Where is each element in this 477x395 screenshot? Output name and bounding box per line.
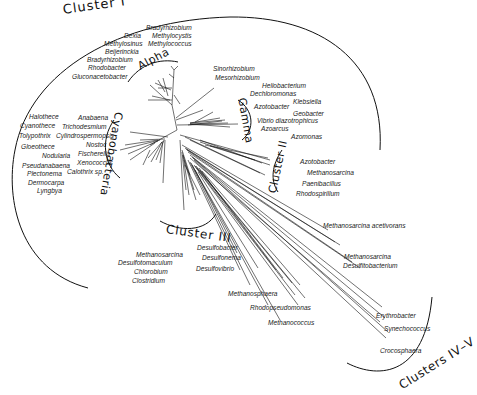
taxon-label: Heliobacterium xyxy=(262,83,306,90)
taxon-label: Chlorobium xyxy=(134,269,168,276)
taxon-label: Pseudanabaena xyxy=(22,163,70,170)
taxon-label: Halothece xyxy=(29,114,59,121)
taxon-label: Xenococcus xyxy=(77,160,113,167)
taxon-label: Desulfonema xyxy=(202,255,241,262)
taxon-label: Methylosinus xyxy=(104,41,142,48)
taxon-label: Nostoc xyxy=(86,142,107,149)
taxon-label: Nodularia xyxy=(42,153,70,160)
taxon-label: Cyanothece xyxy=(20,123,55,130)
taxon-label: Klebsiella xyxy=(293,99,321,106)
taxon-label: Mesorhizobium xyxy=(215,75,260,82)
taxon-label: Dermocarpa xyxy=(28,180,64,187)
clusters-iv-v-arc xyxy=(347,297,432,371)
taxon-label: Trichodesmium xyxy=(62,124,107,131)
taxon-label: Methylocystis xyxy=(152,33,192,40)
taxon-label: Methanococcus xyxy=(268,320,314,327)
taxon-label: Gluconacetobacter xyxy=(72,74,127,81)
taxon-label: Rhodospirillum xyxy=(296,191,340,198)
taxon-label: Calothrix sp. xyxy=(67,169,104,176)
taxon-label: Desulfobacter xyxy=(197,245,238,252)
taxon-label: Fischerella xyxy=(78,151,110,158)
taxon-label: Desulfotomaculum xyxy=(118,260,173,267)
taxon-label: Azomonas xyxy=(291,134,322,141)
taxon-label: Sinorhizobium xyxy=(213,66,255,73)
taxon-label: Methanosarcina acetivorans xyxy=(323,223,405,230)
taxon-label: Azotobacter xyxy=(300,159,335,166)
taxon-label: Methanosphaera xyxy=(228,291,278,298)
taxon-label: Desulfitobacterium xyxy=(343,263,398,270)
taxon-label: Erythrobacter xyxy=(376,313,416,320)
taxon-label: Azotobacter xyxy=(254,104,289,111)
taxon-label: Plectonema xyxy=(27,171,62,178)
taxon-label: Methanosarcina xyxy=(307,170,354,177)
taxon-label: Paenibacillus xyxy=(302,181,341,188)
taxon-label: Gloeothece xyxy=(21,144,55,151)
taxon-label: Crocosphaera xyxy=(380,348,421,355)
taxon-label: Clostridium xyxy=(132,278,165,285)
taxon-label: Rhodobacter xyxy=(88,65,126,72)
taxon-label: Methylococcus xyxy=(148,41,192,48)
taxon-label: Dechloromonas xyxy=(250,91,296,98)
taxon-label: Lyngbya xyxy=(37,188,62,195)
taxon-label: Rhodopseudomonas xyxy=(250,305,311,312)
taxon-label: Bradyrhizobium xyxy=(146,25,192,32)
taxon-label: Cylindrospermopsis xyxy=(56,133,114,140)
taxon-label: Vibrio diazotrophicus xyxy=(257,118,318,125)
taxon-label: Bradyrhizobium xyxy=(87,57,133,64)
taxon-label: Desulfovibrio xyxy=(196,266,234,273)
taxon-label: Azoarcus xyxy=(261,126,289,133)
taxon-label: Methanosarcina xyxy=(344,254,391,261)
taxon-label: Beijerinckia xyxy=(105,49,139,56)
taxon-label: Dexia xyxy=(124,33,141,40)
taxon-label: Anabaena xyxy=(78,115,108,122)
taxon-label: Tolypothrix xyxy=(19,133,51,140)
taxon-label: Methanosarcina xyxy=(136,252,183,259)
taxon-label: Synechococcus xyxy=(384,326,430,333)
